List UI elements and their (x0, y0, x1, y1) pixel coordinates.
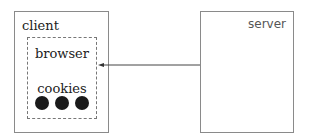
arrowhead-icon (98, 63, 104, 67)
server-label: server (248, 18, 286, 30)
cookie-icon (75, 96, 89, 110)
cookies-label: cookies (28, 82, 96, 95)
browser-box: browser cookies (27, 37, 97, 119)
browser-label: browser (28, 47, 96, 60)
server-box: server (200, 11, 294, 133)
cookie-icon (55, 96, 69, 110)
arrow-server-to-browser (97, 60, 201, 70)
cookie-icon (35, 96, 49, 110)
client-label: client (22, 19, 59, 32)
cookie-dots (28, 96, 96, 110)
